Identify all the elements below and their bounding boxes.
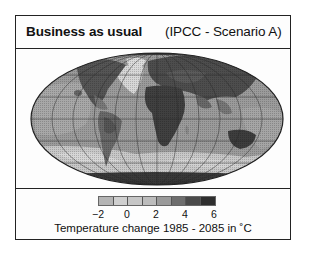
colorbar-swatch	[186, 197, 201, 205]
mollweide-map-graphic	[16, 49, 292, 188]
tick-label: 2	[153, 208, 159, 220]
figure-title: Business as usual	[26, 24, 142, 39]
tick-label: 4	[182, 208, 188, 220]
figure-subtitle: (IPCC - Scenario A)	[165, 24, 282, 39]
tick-label: 6	[211, 208, 217, 220]
colorbar-swatch	[172, 197, 187, 205]
colorbar-swatch	[157, 197, 172, 205]
colorbar-swatch	[99, 197, 114, 205]
colorbar-swatch	[128, 197, 143, 205]
colorbar-ticks: −2 0 2 4 6	[16, 208, 290, 220]
figure-header: Business as usual (IPCC - Scenario A)	[16, 16, 290, 49]
world-map	[16, 49, 290, 188]
figure-frame: Business as usual (IPCC - Scenario A)	[15, 15, 291, 240]
tick-label: −2	[92, 208, 104, 220]
colorbar-swatch	[114, 197, 129, 205]
tick-label: 0	[124, 208, 130, 220]
colorbar-swatch	[201, 197, 216, 205]
colorbar	[98, 196, 216, 206]
colorbar-swatch	[143, 197, 158, 205]
colorbar-caption: Temperature change 1985 - 2085 in ˚C	[16, 222, 290, 234]
legend: −2 0 2 4 6 Temperature change 1985 - 208…	[16, 188, 290, 241]
